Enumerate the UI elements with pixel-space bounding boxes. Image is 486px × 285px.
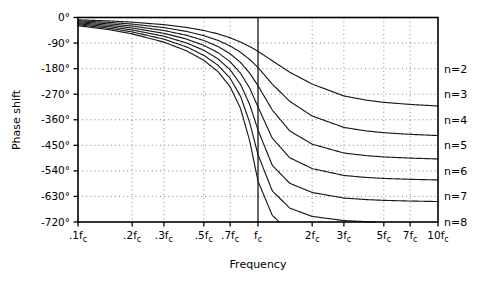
x-tick-label: 2fc — [305, 229, 320, 244]
x-tick-label: 5fc — [376, 229, 391, 244]
y-tick-label: 0° — [58, 11, 70, 23]
y-tick-label: -450° — [41, 139, 70, 151]
x-tick-label: 10fc — [427, 229, 448, 244]
series-label-n6: n=6 — [444, 165, 467, 178]
series-label-n4: n=4 — [444, 114, 467, 127]
x-tick-label: .1fc — [69, 229, 87, 244]
series-label-n8: n=8 — [444, 216, 467, 229]
series-label-n5: n=5 — [444, 139, 467, 152]
y-tick-label: -180° — [41, 62, 70, 74]
y-tick-label: -90° — [48, 37, 70, 49]
x-tick-label: .3fc — [155, 229, 173, 244]
y-axis-title: Phase shift — [10, 89, 23, 150]
x-tick-label: .5fc — [195, 229, 213, 244]
series-label-n2: n=2 — [444, 63, 467, 76]
series-label-n7: n=7 — [444, 190, 467, 203]
x-tick-label: .2fc — [123, 229, 141, 244]
x-tick-label: 7fc — [403, 229, 418, 244]
series-label-n3: n=3 — [444, 88, 467, 101]
y-tick-label: -540° — [41, 164, 70, 176]
phase-shift-chart: .1fc.2fc.3fc.5fc.7fcfc2fc3fc5fc7fc10fc 0… — [0, 0, 486, 285]
x-tick-label: .7fc — [221, 229, 239, 244]
chart-canvas: .1fc.2fc.3fc.5fc.7fcfc2fc3fc5fc7fc10fc 0… — [0, 0, 486, 285]
y-tick-label: -720° — [41, 216, 70, 228]
y-tick-label: -360° — [41, 113, 70, 125]
x-axis-title: Frequency — [230, 258, 287, 271]
y-tick-labels: 0°-90°-180°-270°-360°-450°-540°-630°-720… — [41, 11, 70, 228]
y-tick-label: -630° — [41, 190, 70, 202]
x-tick-labels: .1fc.2fc.3fc.5fc.7fcfc2fc3fc5fc7fc10fc — [69, 229, 449, 244]
x-tick-label: fc — [254, 229, 262, 244]
y-tick-label: -270° — [41, 88, 70, 100]
series-labels: n=2n=3n=4n=5n=6n=7n=8 — [444, 63, 467, 229]
x-tick-label: 3fc — [336, 229, 351, 244]
